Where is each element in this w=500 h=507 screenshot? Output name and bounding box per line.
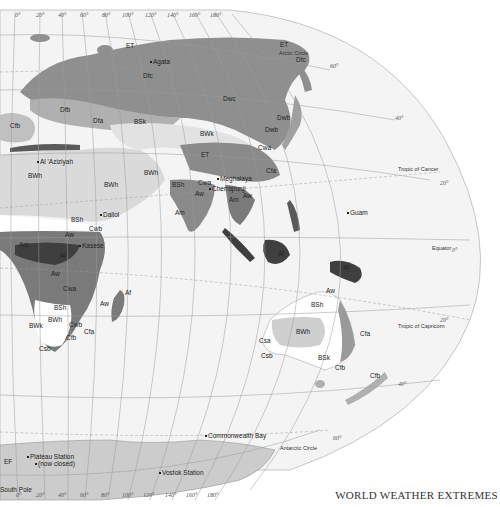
climate-label: Dwb (277, 114, 290, 121)
climate-label: Dfc (143, 72, 154, 79)
climate-label: Dfb (60, 106, 71, 113)
svg-text:160°: 160° (186, 492, 198, 498)
climate-label: Dfa (93, 117, 104, 124)
svg-text:120°: 120° (145, 12, 157, 18)
svg-text:Tropic of Cancer: Tropic of Cancer (398, 166, 439, 172)
place-label: Meghalaya (220, 175, 252, 183)
climate-label: ET (280, 41, 288, 48)
climate-label: Cfa (360, 330, 371, 337)
climate-label: Cwb (89, 225, 102, 232)
climate-label: Cfa (266, 167, 277, 174)
place-label: Cherrapunji (212, 185, 246, 193)
place-marker-icon (37, 161, 39, 163)
place-marker-icon (209, 188, 211, 190)
climate-label: Af (60, 252, 66, 259)
climate-label: Aw (51, 270, 60, 277)
climate-label: Csa (259, 337, 271, 344)
climate-label: BWh (28, 172, 42, 179)
svg-text:0°: 0° (15, 12, 21, 18)
svg-text:180°: 180° (210, 12, 222, 18)
landmass-tasmania (315, 380, 325, 388)
landmass-novaya-zemlya (97, 45, 113, 55)
climate-label: BWh (48, 316, 62, 323)
svg-text:0°: 0° (452, 247, 458, 253)
place-label: Plateau Station (30, 453, 74, 460)
place-label: (now closed) (38, 460, 75, 468)
place-label: Commonwealth Bay (208, 432, 267, 440)
place-label: Guam (350, 209, 368, 216)
svg-text:40°: 40° (58, 12, 67, 18)
climate-label: BWh (296, 328, 310, 335)
svg-text:100°: 100° (122, 492, 134, 498)
climate-label: BSh (54, 304, 67, 311)
page-title: WORLD WEATHER EXTREMES (335, 489, 498, 501)
svg-text:160°: 160° (189, 12, 201, 18)
climate-label: BWh (104, 181, 118, 188)
svg-text:Equator: Equator (432, 245, 451, 251)
climate-label: BWk (29, 322, 43, 329)
place-marker-icon (150, 61, 152, 63)
place-marker-icon (205, 435, 207, 437)
climate-label: Am (229, 196, 239, 203)
climate-label: Cfb (10, 122, 21, 129)
place-label: Dallol (103, 211, 120, 218)
svg-text:20°: 20° (36, 12, 45, 18)
climate-label: Dwc (223, 95, 236, 102)
svg-text:60°: 60° (333, 435, 342, 441)
svg-text:20°: 20° (36, 492, 45, 498)
climate-label: Aw (326, 287, 335, 294)
world-climate-map: 0° 20° 40° 60° 80° 100° 120° 140° 160° 1… (0, 0, 500, 507)
svg-text:80°: 80° (102, 12, 111, 18)
place-marker-icon (35, 463, 37, 465)
climate-label: Csb (261, 352, 273, 359)
climate-label: BSh (71, 216, 84, 223)
place-label: Agata (153, 58, 170, 66)
climate-label: Dfc (296, 56, 307, 63)
climate-label: Aw (100, 300, 109, 307)
climate-label: Cwa (63, 285, 76, 292)
climate-label: Cfa (84, 328, 95, 335)
climate-label: Cwa (198, 179, 211, 186)
climate-label: BSh (172, 181, 185, 188)
svg-text:Antarctic Circle: Antarctic Circle (280, 445, 317, 451)
svg-text:60°: 60° (80, 12, 89, 18)
climate-label: ET (201, 151, 209, 158)
place-marker-icon (217, 178, 219, 180)
svg-text:20°: 20° (440, 180, 449, 186)
climate-label: Cwa (258, 144, 271, 151)
climate-label: ET (126, 42, 134, 49)
climate-label: Cfb (66, 334, 77, 341)
svg-text:Tropic of Capricorn: Tropic of Capricorn (398, 323, 445, 329)
climate-label: BWh (144, 169, 158, 176)
svg-text:100°: 100° (122, 12, 134, 18)
climate-label: Af (343, 264, 349, 271)
climate-label: Am (175, 209, 185, 216)
climate-label: Aw (65, 231, 74, 238)
place-label: South Pole (0, 486, 32, 493)
climate-label: Am (19, 241, 29, 248)
place-marker-icon (159, 472, 161, 474)
svg-text:140°: 140° (165, 492, 177, 498)
svg-text:180°: 180° (207, 492, 219, 498)
svg-text:40°: 40° (395, 115, 404, 121)
climate-label: Aw (195, 190, 204, 197)
svg-text:60°: 60° (330, 63, 339, 69)
climate-label: Cfb (370, 372, 381, 379)
climate-label: Dwb (265, 126, 278, 133)
svg-text:120°: 120° (143, 492, 155, 498)
landmass-svalbard (30, 34, 50, 42)
place-marker-icon (27, 456, 29, 458)
svg-text:40°: 40° (398, 381, 407, 387)
climate-label: Csb (39, 345, 51, 352)
svg-text:80°: 80° (101, 492, 110, 498)
climate-label: Af (125, 289, 131, 296)
climate-label: BWk (200, 130, 214, 137)
climate-label: BSk (134, 118, 147, 125)
climate-label: EF (4, 458, 12, 465)
svg-text:60°: 60° (80, 492, 89, 498)
svg-text:140°: 140° (167, 12, 179, 18)
place-marker-icon (79, 245, 81, 247)
climate-label: BSh (311, 301, 324, 308)
climate-label: BSk (318, 354, 331, 361)
place-label: Vostok Station (162, 469, 204, 476)
